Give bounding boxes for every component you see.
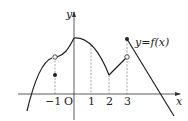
line-descend	[127, 39, 174, 116]
tick-label-3: 3	[124, 95, 131, 108]
filled-point-x-3	[125, 37, 129, 41]
curve-fall	[74, 38, 109, 75]
y-axis-arrow-icon	[72, 11, 76, 17]
open-point-x-minus1	[53, 55, 57, 59]
filled-point-x-minus1	[53, 73, 57, 77]
function-graph: y x O −1 1 2 3 y=f(x)	[0, 0, 188, 121]
function-label: y=f(x)	[134, 36, 169, 49]
tick-label-minus1: −1	[45, 95, 61, 108]
x-axis-label: x	[176, 95, 183, 108]
y-axis-label: y	[65, 8, 73, 21]
tick-label-1: 1	[88, 95, 95, 108]
curve-rise	[57, 38, 74, 57]
origin-label: O	[64, 95, 73, 108]
open-point-x-3	[125, 55, 129, 59]
segment-rise	[109, 59, 126, 76]
tick-label-2: 2	[106, 95, 113, 108]
